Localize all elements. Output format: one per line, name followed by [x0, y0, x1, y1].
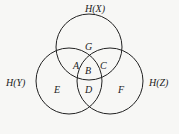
label-hz: H(Z) — [148, 77, 169, 89]
region-f: F — [117, 84, 125, 95]
circle-hy — [36, 48, 102, 114]
region-g: G — [85, 41, 92, 52]
circle-hz — [77, 48, 143, 114]
region-a: A — [72, 60, 80, 71]
region-c: C — [100, 60, 107, 71]
region-e: E — [53, 84, 60, 95]
label-hx: H(X) — [84, 3, 106, 15]
venn-diagram: H(X) H(Y) H(Z) G A B C D E F — [0, 0, 179, 134]
region-b: B — [85, 65, 91, 76]
region-d: D — [84, 84, 93, 95]
label-hy: H(Y) — [5, 77, 26, 89]
